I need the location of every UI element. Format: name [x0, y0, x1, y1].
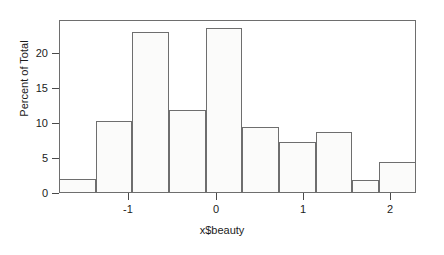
y-tick-mark: [52, 88, 59, 89]
x-tick-mark: [390, 193, 391, 200]
y-tick-mark: [52, 123, 59, 124]
y-tick-label: 15: [36, 83, 48, 94]
x-tick-mark: [216, 193, 217, 200]
y-tick-mark: [52, 53, 59, 54]
histogram-figure: Percent of Total 0 5 10 15 20 -1 0 1 2 x…: [0, 0, 444, 255]
y-tick-mark: [52, 158, 59, 159]
y-tick-mark: [52, 193, 59, 194]
plot-area: [59, 20, 416, 193]
y-tick-label: 5: [42, 153, 48, 164]
x-tick-label: 1: [300, 204, 306, 215]
y-tick-label: 20: [36, 48, 48, 59]
y-tick-label: 0: [42, 188, 48, 199]
y-tick-label: 10: [36, 118, 48, 129]
x-tick-mark: [303, 193, 304, 200]
y-axis-title: Percent of Total: [19, 14, 30, 144]
x-tick-label: 2: [387, 204, 393, 215]
x-tick-label: -1: [123, 204, 133, 215]
x-axis-title: x$beauty: [0, 225, 444, 236]
x-tick-mark: [128, 193, 129, 200]
x-tick-label: 0: [213, 204, 219, 215]
